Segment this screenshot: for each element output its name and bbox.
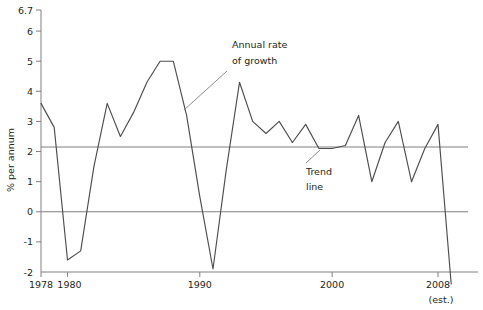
annotation-annual-rate-of-growth: Annual rate of growth [184, 39, 287, 110]
annotation-trend-line: Trend line [305, 150, 332, 192]
y-tick-label-3: 3 [27, 116, 33, 127]
y-tick-marks [36, 10, 41, 242]
y-tick-label--2: -2 [24, 267, 33, 278]
y-tick-label-5: 5 [27, 56, 33, 67]
x-tick-label-1990: 1990 [188, 279, 212, 290]
annotation-growth-line1: Annual rate [232, 39, 287, 50]
x-tick-sublabel-est: (est.) [429, 294, 454, 305]
y-tick-label-6: 6 [27, 26, 33, 37]
annotation-trend-line2: line [306, 181, 323, 192]
x-tick-marks [41, 272, 438, 277]
y-tick-label--1: -1 [24, 236, 33, 247]
growth-rate-polyline [41, 61, 451, 284]
x-tick-label-2000: 2000 [320, 279, 344, 290]
x-tick-labels: 1978 1980 1990 2000 2008 (est.) [29, 279, 454, 305]
y-tick-label-6.7: 6.7 [18, 5, 33, 16]
y-tick-labels: 6.7 6 5 4 3 2 1 0 -1 [18, 5, 33, 248]
x-tick-label-2008: 2008 [426, 279, 450, 290]
y-tick-label-0: 0 [27, 206, 33, 217]
annotation-leader-line-trend [306, 150, 320, 163]
x-tick-label-1980: 1980 [57, 279, 81, 290]
annotation-leader-line-growth [184, 71, 227, 110]
annotation-growth-line2: of growth [232, 55, 277, 66]
y-axis-title: % per annum [5, 128, 16, 192]
reference-lines [41, 147, 468, 212]
growth-rate-chart: 6.7 6 5 4 3 2 1 0 -1 -2 % per annum 1978… [0, 0, 483, 310]
x-tick-label-1978: 1978 [29, 279, 53, 290]
series-annual-rate-of-growth [41, 61, 451, 284]
y-tick-label-1: 1 [27, 176, 33, 187]
y-tick-label-4: 4 [27, 86, 33, 97]
y-tick-label-2: 2 [27, 146, 33, 157]
chart-svg: 6.7 6 5 4 3 2 1 0 -1 -2 % per annum 1978… [0, 0, 483, 310]
annotation-trend-line1: Trend [305, 166, 332, 177]
